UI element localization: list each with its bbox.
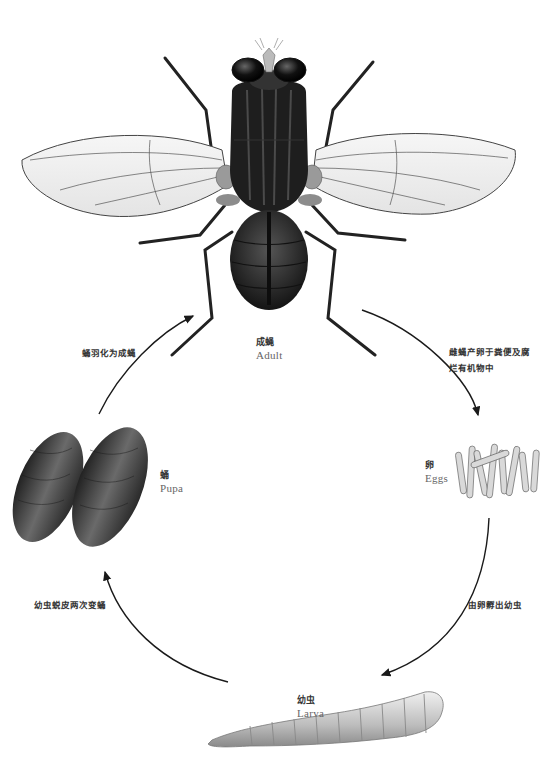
note-line-1: 由卵孵出幼虫 xyxy=(468,597,522,613)
pupa-illustration xyxy=(0,417,163,558)
arrow-pupa-to-adult xyxy=(99,316,193,414)
eggs-zh: 卵 xyxy=(425,459,448,472)
stage-label-pupa: 蛹 Pupa xyxy=(160,469,183,495)
stage-label-eggs: 卵 Eggs xyxy=(425,459,448,485)
transition-note-larva-to-pupa: 幼虫蜕皮两次变蛹 xyxy=(34,597,106,613)
transition-note-adult-to-eggs: 雌蝇产卵于粪便及腐 烂有机物中 xyxy=(449,344,530,376)
fly-life-cycle-diagram: 成蝇 Adult 卵 Eggs 幼虫 Larva 蛹 Pupa 雌蝇产卵于粪便及… xyxy=(0,0,548,772)
illustration-layer xyxy=(0,0,548,772)
stage-label-larva: 幼虫 Larva xyxy=(297,694,324,720)
larva-zh: 幼虫 xyxy=(297,694,324,707)
transition-note-pupa-to-adult: 蛹羽化为成蝇 xyxy=(82,345,136,361)
note-line-1: 蛹羽化为成蝇 xyxy=(82,345,136,361)
eggs-en: Eggs xyxy=(425,472,448,485)
larva-illustration xyxy=(208,692,443,747)
larva-en: Larva xyxy=(297,707,324,720)
adult-fly-illustration xyxy=(22,38,515,355)
note-line-1: 雌蝇产卵于粪便及腐 xyxy=(449,344,530,360)
arrow-larva-to-pupa xyxy=(105,572,228,682)
transition-note-eggs-to-larva: 由卵孵出幼虫 xyxy=(468,597,522,613)
adult-en: Adult xyxy=(256,349,283,362)
stage-label-adult: 成蝇 Adult xyxy=(256,336,283,362)
cycle-arrows xyxy=(99,310,489,682)
eggs-illustration xyxy=(455,444,539,498)
adult-zh: 成蝇 xyxy=(256,336,283,349)
note-line-1: 幼虫蜕皮两次变蛹 xyxy=(34,597,106,613)
note-line-2: 烂有机物中 xyxy=(449,360,530,376)
pupa-en: Pupa xyxy=(160,482,183,495)
pupa-zh: 蛹 xyxy=(160,469,183,482)
